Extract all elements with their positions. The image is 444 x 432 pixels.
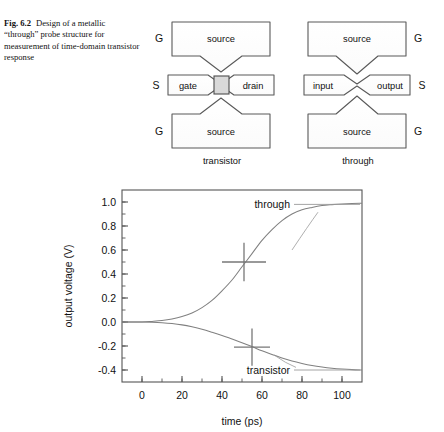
x-tick-label: 20 xyxy=(176,389,188,401)
through-bottom-source-label: source xyxy=(343,127,371,137)
x-tick-label: 40 xyxy=(216,389,228,401)
curve-annotations: throughtransistor xyxy=(247,198,360,376)
through-diagram-caption: through xyxy=(308,156,408,166)
y-tick-label: 0.4 xyxy=(101,268,116,280)
figure-number: Fig. 6.2 xyxy=(4,18,31,28)
x-tick-label: 100 xyxy=(333,389,351,401)
diagram-canvas: source gate drain source G S G source in… xyxy=(150,14,444,174)
transistor-top-source-label: source xyxy=(207,34,235,44)
data-curves xyxy=(122,203,362,370)
through-input-label: input xyxy=(313,81,334,91)
transistor-bottom-source-pad xyxy=(172,98,270,148)
through-probe-tip-g-top: G xyxy=(414,32,422,44)
transistor-gate-label: gate xyxy=(179,81,197,91)
x-axis-title: time (ps) xyxy=(222,415,263,427)
annotation-through: through xyxy=(254,198,290,210)
error-cross-through xyxy=(222,243,266,281)
through-top-source-pad xyxy=(308,22,406,74)
annotation-transistor: transistor xyxy=(247,364,291,376)
through-top-source-label: source xyxy=(343,34,371,44)
through-bottom-source-pad xyxy=(308,96,406,148)
response-chart: 020406080100-0.4-0.20.00.20.40.60.81.0 t… xyxy=(58,178,444,432)
x-tick-label: 0 xyxy=(139,389,145,401)
through-leader-curve xyxy=(292,212,318,250)
y-tick-label: -0.2 xyxy=(98,340,116,352)
x-tick-label: 80 xyxy=(296,389,308,401)
y-tick-label: -0.4 xyxy=(98,364,116,376)
probe-structure-diagrams: source gate drain source G S G source in… xyxy=(150,14,444,174)
error-cross-transistor xyxy=(234,329,270,366)
x-tick-label: 60 xyxy=(256,389,268,401)
curve-transistor xyxy=(122,322,362,370)
y-tick-label: 0.6 xyxy=(101,244,116,256)
transistor-top-source-pad xyxy=(172,22,270,72)
chart-canvas: 020406080100-0.4-0.20.00.20.40.60.81.0 t… xyxy=(58,178,444,432)
transistor-diagram-caption: transistor xyxy=(172,156,272,166)
transistor-probe-tip-g-bottom: G xyxy=(155,125,163,137)
y-tick-label: 0.8 xyxy=(101,220,116,232)
through-probe-tip-s-mid: S xyxy=(418,79,425,91)
y-axis-title: output voltage (V) xyxy=(62,245,74,328)
transistor-diagram: source gate drain source G S G xyxy=(152,22,274,148)
through-diagram: source input output source G S G xyxy=(304,22,426,148)
transistor-active-channel xyxy=(214,76,229,94)
y-tick-label: 1.0 xyxy=(101,196,116,208)
transistor-probe-tip-s-mid: S xyxy=(152,79,159,91)
through-probe-tip-g-bottom: G xyxy=(414,125,422,137)
figure-caption: Fig. 6.2Design of a metallic “through” p… xyxy=(4,18,140,64)
axis-ticks xyxy=(122,202,342,382)
y-tick-label: 0.2 xyxy=(101,292,116,304)
transistor-bottom-source-label: source xyxy=(207,127,235,137)
plot-frame xyxy=(122,190,362,382)
y-tick-label: 0.0 xyxy=(101,316,116,328)
figure-page: Fig. 6.2Design of a metallic “through” p… xyxy=(0,0,444,432)
through-output-label: output xyxy=(377,81,403,91)
transistor-drain-label: drain xyxy=(243,81,264,91)
transistor-probe-tip-g-top: G xyxy=(155,32,163,44)
